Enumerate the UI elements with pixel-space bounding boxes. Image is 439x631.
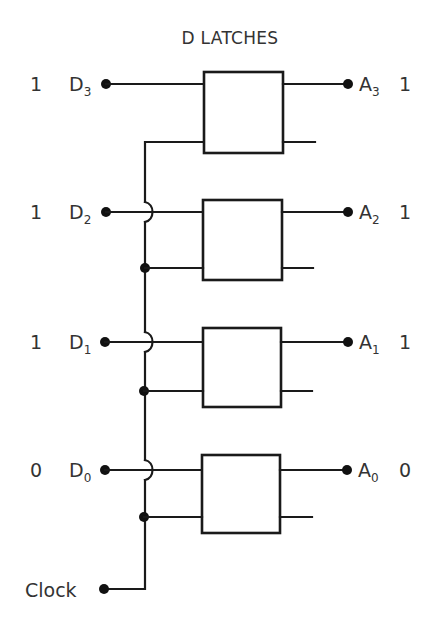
clock-terminal-icon (99, 584, 109, 594)
input-value-d1: 1 (30, 331, 42, 353)
output-value-a0: 0 (399, 459, 411, 481)
diagram-title: D LATCHES (182, 28, 279, 48)
input-label-d1: D1 (69, 331, 91, 357)
output-label-a1: A1 (359, 331, 380, 357)
clock-label: Clock (25, 579, 77, 601)
input-value-d0: 0 (30, 459, 42, 481)
clock-bus (104, 142, 204, 589)
input-value-d2: 1 (30, 201, 42, 223)
latch-box-3 (204, 72, 283, 153)
input-label-d3: D3 (69, 73, 91, 99)
output-terminal-a1-icon (343, 337, 353, 347)
output-label-a0: A0 (358, 459, 379, 485)
latch-3: 1 D3 A3 1 (30, 72, 411, 153)
latch-box-0 (202, 455, 280, 533)
latch-1: 1 D1 A1 1 (30, 328, 411, 407)
latch-box-2 (203, 200, 282, 280)
d-latch-diagram: D LATCHES Clock 1 D3 A3 1 1 D2 (0, 0, 439, 631)
output-label-a2: A2 (359, 201, 380, 227)
input-label-d0: D0 (69, 459, 91, 485)
clock-input: Clock (25, 579, 109, 601)
output-terminal-a0-icon (342, 465, 352, 475)
input-value-d3: 1 (30, 73, 42, 95)
output-value-a2: 1 (399, 201, 411, 223)
output-terminal-a2-icon (343, 207, 353, 217)
output-label-a3: A3 (359, 73, 380, 99)
latch-box-1 (203, 328, 281, 407)
output-terminal-a3-icon (343, 79, 353, 89)
output-value-a1: 1 (399, 331, 411, 353)
latch-2: 1 D2 A2 1 (30, 200, 411, 280)
input-label-d2: D2 (69, 201, 91, 227)
latch-0: 0 D0 A0 0 (30, 455, 411, 533)
output-value-a3: 1 (399, 73, 411, 95)
